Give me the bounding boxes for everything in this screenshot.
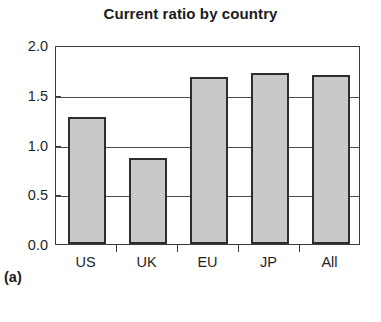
y-tick-label-0.5: 0.5 xyxy=(2,188,48,203)
x-tick-mark-3 xyxy=(238,245,239,252)
chart-title: Current ratio by country xyxy=(0,5,381,22)
plot-area xyxy=(55,46,360,245)
x-tick-label-us: US xyxy=(55,255,116,270)
y-tick-mark-1.0 xyxy=(55,146,61,147)
y-tick-label-2.0: 2.0 xyxy=(2,39,48,54)
bar-us xyxy=(68,117,106,244)
x-tick-mark-2 xyxy=(177,245,178,252)
y-tick-mark-1.5 xyxy=(55,96,61,97)
y-tick-label-0.0: 0.0 xyxy=(2,238,48,253)
x-tick-label-jp: JP xyxy=(238,255,299,270)
y-axis-tick-labels: 0.00.51.01.52.0 xyxy=(0,46,48,245)
bar-uk xyxy=(129,158,167,244)
bar-eu xyxy=(190,77,228,244)
x-tick-mark-4 xyxy=(299,245,300,252)
x-tick-mark-1 xyxy=(116,245,117,252)
chart-figure: Current ratio by country 0.00.51.01.52.0… xyxy=(0,0,381,322)
bar-jp xyxy=(251,73,289,244)
y-tick-mark-0.5 xyxy=(55,195,61,196)
x-tick-label-uk: UK xyxy=(116,255,177,270)
plot-inner xyxy=(56,47,359,244)
y-tick-label-1.5: 1.5 xyxy=(2,89,48,104)
panel-caption: (a) xyxy=(4,269,22,285)
x-tick-label-eu: EU xyxy=(177,255,238,270)
y-tick-label-1.0: 1.0 xyxy=(2,139,48,154)
bar-all xyxy=(312,75,350,244)
x-tick-label-all: All xyxy=(299,255,360,270)
